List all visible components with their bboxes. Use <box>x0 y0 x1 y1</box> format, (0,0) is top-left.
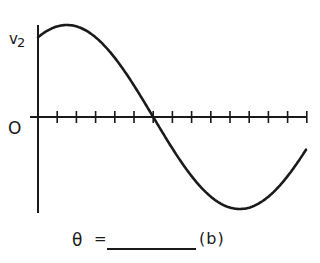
y-label-subscript: 2 <box>17 35 24 50</box>
theta-symbol: θ <box>72 230 82 250</box>
y-label-text: v <box>9 30 17 48</box>
y-axis-label: v2 <box>9 30 24 50</box>
waveform-figure <box>0 0 320 263</box>
origin-label: O <box>8 118 21 138</box>
equals-sign: = <box>94 230 107 248</box>
part-label: (b) <box>199 229 225 248</box>
answer-blank-line[interactable] <box>107 248 196 250</box>
